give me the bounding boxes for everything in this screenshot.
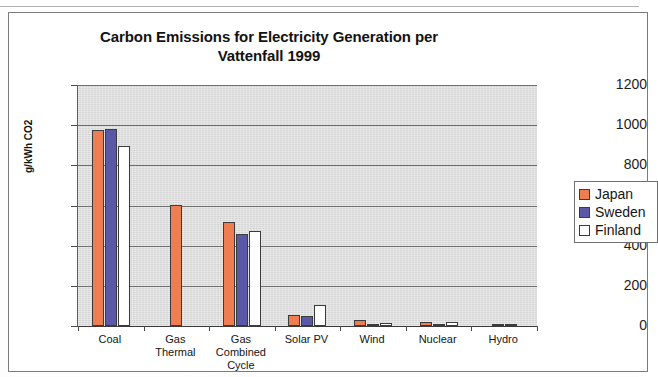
legend-item-sweden: Sweden: [579, 203, 655, 221]
legend-item-finland: Finland: [579, 221, 655, 239]
x-axis-tick-mark: [340, 326, 341, 331]
bar-nuclear-sweden: [433, 324, 445, 326]
x-axis-tick-mark: [144, 326, 145, 331]
x-axis-tick-label: Solar PV: [274, 333, 340, 346]
bar-coal-japan: [92, 130, 104, 326]
bar-group: [144, 85, 210, 326]
y-axis-tick-mark: [71, 326, 77, 327]
bar-gas-combined-cycle-finland: [249, 231, 261, 326]
bar-coal-sweden: [105, 129, 117, 326]
x-axis-tick-mark: [471, 326, 472, 331]
bar-gas-combined-cycle-japan: [223, 222, 235, 326]
bar-nuclear-finland: [446, 322, 458, 326]
y-axis-tick-label: 1000: [601, 116, 647, 132]
y-axis-tick-mark: [71, 286, 77, 287]
x-axis-tick-label: Coal: [77, 333, 143, 346]
y-axis-tick-mark: [71, 246, 77, 247]
bar-group: [275, 85, 341, 326]
chart-title: Carbon Emissions for Electricity Generat…: [49, 27, 489, 65]
bar-group: [340, 85, 406, 326]
x-axis-tick-mark: [78, 326, 79, 331]
chart-title-line-1: Carbon Emissions for Electricity Generat…: [49, 27, 489, 46]
x-axis-tick-label: Gas Combined Cycle: [208, 333, 274, 372]
bar-solar-pv-finland: [314, 305, 326, 326]
plot-area: [77, 85, 537, 327]
legend: JapanSwedenFinland: [574, 181, 658, 243]
bar-group: [78, 85, 144, 326]
legend-swatch-finland: [579, 225, 590, 236]
y-axis-title: g/kWh CO2: [23, 120, 34, 173]
y-axis-tick-mark: [71, 125, 77, 126]
y-axis-tick-label: 0: [601, 317, 647, 333]
x-axis-tick-label: Wind: [339, 333, 405, 346]
x-axis-tick-label: Hydro: [470, 333, 536, 346]
bar-gas-thermal-japan: [170, 205, 182, 327]
chart-frame: Carbon Emissions for Electricity Generat…: [8, 12, 648, 372]
bar-group: [471, 85, 537, 326]
bar-wind-sweden: [367, 324, 379, 326]
x-axis-tick-label: Nuclear: [405, 333, 471, 346]
bar-solar-pv-japan: [288, 315, 300, 326]
y-axis-tick-label: 1200: [601, 76, 647, 92]
legend-label: Sweden: [595, 204, 646, 220]
y-axis-tick-mark: [71, 206, 77, 207]
bar-hydro-sweden: [505, 324, 517, 326]
bar-group: [406, 85, 472, 326]
y-axis-tick-label: 200: [601, 277, 647, 293]
y-axis-tick-mark: [71, 85, 77, 86]
y-axis-tick-label: 800: [601, 156, 647, 172]
bar-nuclear-japan: [420, 322, 432, 326]
x-axis-tick-mark: [209, 326, 210, 331]
legend-item-japan: Japan: [579, 185, 655, 203]
x-axis-tick-mark: [406, 326, 407, 331]
legend-label: Japan: [595, 186, 633, 202]
legend-swatch-sweden: [579, 207, 590, 218]
y-axis-tick-mark: [71, 165, 77, 166]
x-axis-tick-mark: [275, 326, 276, 331]
x-axis-tick-mark: [537, 326, 538, 331]
bar-hydro-japan: [492, 324, 504, 326]
bar-wind-finland: [380, 323, 392, 326]
chart-title-line-2: Vattenfall 1999: [49, 46, 489, 65]
scan-artifact-line: [0, 6, 639, 7]
bar-wind-japan: [354, 320, 366, 326]
bar-gas-combined-cycle-sweden: [236, 234, 248, 326]
x-axis-tick-label: Gas Thermal: [143, 333, 209, 359]
bar-solar-pv-sweden: [301, 316, 313, 326]
legend-swatch-japan: [579, 189, 590, 200]
legend-label: Finland: [595, 222, 641, 238]
bar-group: [209, 85, 275, 326]
bar-coal-finland: [118, 146, 130, 326]
